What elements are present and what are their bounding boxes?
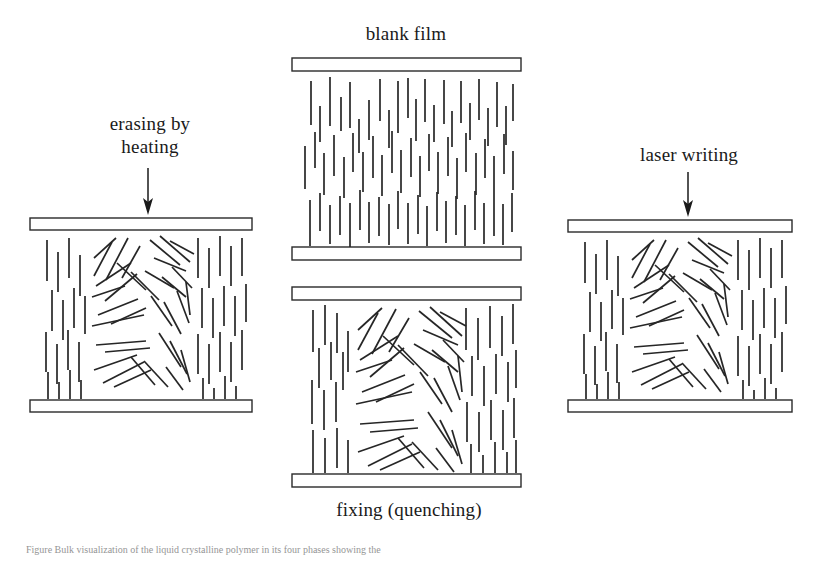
- laser-writing-film-scattering-domain: [630, 238, 732, 392]
- laser-writing-film-right-aligned-rods: [738, 238, 786, 399]
- erasing-film-cell: [30, 218, 252, 412]
- blank-film-aligned-rods: [305, 77, 513, 247]
- figure-canvas: blank film erasing by heating laser writ…: [0, 0, 823, 562]
- laser-writing-film-left-aligned-rods: [584, 240, 623, 399]
- laser-writing-arrow: [683, 172, 693, 217]
- blank-film-top-plate: [292, 58, 521, 71]
- erasing-film-right-aligned-rods: [198, 236, 246, 399]
- fixed-film-cell: [292, 287, 521, 487]
- erasing-film-bottom-plate: [30, 400, 252, 412]
- erasing-film-top-plate: [30, 218, 252, 230]
- blank-film-bottom-plate: [292, 247, 521, 260]
- laser-writing-film-cell: [568, 220, 792, 412]
- laser-writing-film-bottom-plate: [568, 400, 792, 412]
- diagram-vector-layer: [0, 0, 823, 562]
- erasing-by-heating-arrow: [143, 168, 153, 215]
- erasing-film-left-aligned-rods: [46, 238, 85, 399]
- fixed-film-left-aligned-rods: [312, 305, 348, 473]
- fixed-film-scattering-domain: [356, 307, 466, 472]
- fixed-film-top-plate: [292, 287, 521, 300]
- fixed-film-bottom-plate: [292, 474, 521, 487]
- blank-film-cell: [292, 58, 521, 260]
- fixed-film-right-aligned-rods: [466, 304, 516, 473]
- erasing-film-scattering-domain: [92, 236, 194, 390]
- laser-writing-film-top-plate: [568, 220, 792, 232]
